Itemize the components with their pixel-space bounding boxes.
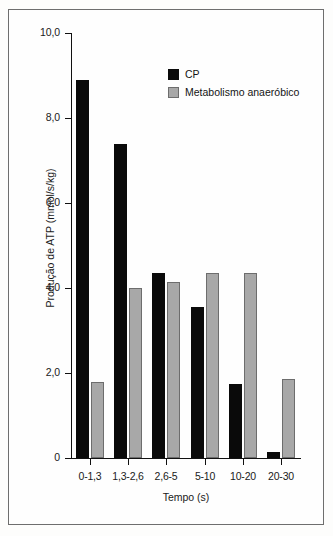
bar-metabolismo-anaerobico: [282, 379, 295, 458]
y-axis-tick-label: 0: [18, 451, 60, 463]
bar-cp: [114, 144, 127, 459]
y-axis-tick: [65, 458, 72, 459]
x-axis-tick: [128, 459, 129, 465]
x-axis-tick: [205, 459, 206, 465]
bar-metabolismo-anaerobico: [244, 273, 257, 458]
x-axis-tick: [281, 459, 282, 465]
chart-legend: CP Metabolismo anaeróbico: [168, 68, 318, 104]
y-axis-tick-label: 10,0: [18, 26, 60, 38]
bar-cp: [267, 452, 280, 458]
bar-cp: [152, 273, 165, 458]
bar-metabolismo-anaerobico: [206, 273, 219, 458]
x-axis-tick: [243, 459, 244, 465]
bar-cp: [76, 80, 89, 458]
legend-label-metabolismo-anaerobico: Metabolismo anaeróbico: [185, 86, 299, 98]
bar-cp: [229, 384, 242, 458]
y-axis-title: Produção de ATP (mmol/s/kg): [44, 143, 56, 333]
y-axis-tick-label: 8,0: [18, 111, 60, 123]
x-axis-tick-label: 20-30: [253, 470, 309, 482]
bar-metabolismo-anaerobico: [129, 288, 142, 458]
x-axis-tick: [90, 459, 91, 465]
legend-swatch-cp-icon: [168, 69, 179, 80]
x-axis-title: Tempo (s): [71, 491, 301, 503]
legend-swatch-metabolismo-anaerobico-icon: [168, 87, 179, 98]
y-axis-tick-label: 2,0: [18, 366, 60, 378]
legend-label-cp: CP: [185, 68, 200, 80]
chart-figure: 02,04,06,08,010,0 0-1,31,3-2,62,6-55-101…: [0, 0, 333, 536]
bar-metabolismo-anaerobico: [167, 282, 180, 458]
x-axis-line: [71, 458, 301, 459]
bar-metabolismo-anaerobico: [91, 382, 104, 459]
legend-item-metabolismo-anaerobico: Metabolismo anaeróbico: [168, 86, 318, 98]
x-axis-tick: [166, 459, 167, 465]
legend-item-cp: CP: [168, 68, 318, 80]
bar-cp: [191, 307, 204, 458]
